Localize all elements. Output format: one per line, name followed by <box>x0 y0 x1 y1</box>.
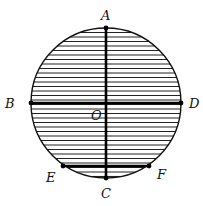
label-F: F <box>157 168 166 181</box>
point-E <box>61 164 66 169</box>
label-E: E <box>46 171 56 184</box>
point-D <box>179 101 184 106</box>
circle-diagram: ABCDEFO <box>0 0 203 206</box>
point-C <box>104 176 109 181</box>
point-B <box>29 101 34 106</box>
circle-figure <box>0 0 203 206</box>
point-F <box>147 164 152 169</box>
label-B: B <box>5 97 15 110</box>
label-O: O <box>91 109 102 122</box>
label-A: A <box>101 9 110 22</box>
point-A <box>104 26 109 31</box>
label-D: D <box>189 97 199 110</box>
label-C: C <box>101 187 111 200</box>
